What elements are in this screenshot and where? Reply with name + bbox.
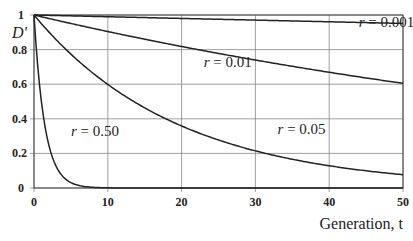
y-tick-label: 0 (18, 181, 24, 195)
series-label: r = 0.001 (359, 14, 413, 30)
gridlines (30, 15, 403, 192)
decay-chart: 0102030405000.20.40.60.81 r = 0.001r = 0… (0, 0, 413, 241)
x-tick-label: 10 (102, 195, 114, 209)
series-label: r = 0.50 (71, 123, 119, 139)
plot-frame (34, 15, 403, 188)
y-tick-label: 0.4 (12, 112, 27, 126)
y-tick-label: 1 (18, 8, 24, 22)
x-tick-label: 20 (176, 195, 188, 209)
y-tick-label: 0.2 (12, 146, 27, 160)
x-tick-label: 30 (249, 195, 261, 209)
x-tick-label: 0 (31, 195, 37, 209)
tick-labels: 0102030405000.20.40.60.81 (12, 8, 409, 209)
curve-0.05 (34, 15, 403, 175)
y-axis-title: D' (11, 24, 28, 41)
series-label: r = 0.01 (204, 54, 252, 70)
x-tick-label: 50 (397, 195, 409, 209)
curves (34, 15, 403, 188)
y-tick-label: 0.6 (12, 77, 27, 91)
series-label: r = 0.05 (278, 121, 326, 137)
x-tick-label: 40 (323, 195, 335, 209)
curve-0.50 (34, 15, 403, 188)
x-axis-title: Generation, t (319, 215, 403, 232)
curve-0.01 (34, 15, 403, 83)
y-tick-label: 0.8 (12, 43, 27, 57)
curve-0.001 (34, 15, 403, 23)
